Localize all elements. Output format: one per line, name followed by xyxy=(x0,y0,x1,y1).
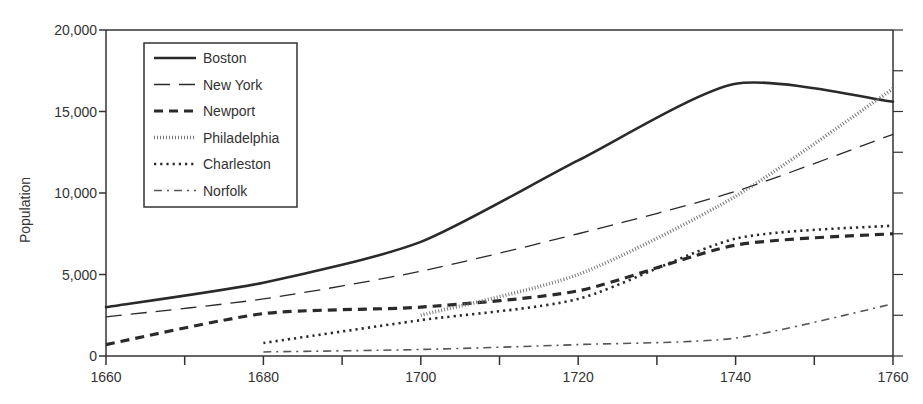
legend-label: Newport xyxy=(203,103,255,119)
legend-label: Norfolk xyxy=(203,183,248,199)
y-axis-label: Population xyxy=(17,177,33,243)
y-tick-label: 15,000 xyxy=(54,104,97,120)
legend-label: Boston xyxy=(203,50,247,66)
legend: BostonNew YorkNewportPhiladelphiaCharles… xyxy=(144,43,297,207)
x-tick-label: 1740 xyxy=(720,369,751,385)
y-tick-label: 10,000 xyxy=(54,185,97,201)
legend-label: Charleston xyxy=(203,156,271,172)
y-axis-ticks-right xyxy=(893,30,903,356)
x-tick-label: 1660 xyxy=(90,369,121,385)
x-tick-label: 1680 xyxy=(248,369,279,385)
x-tick-label: 1700 xyxy=(405,369,436,385)
legend-label: Philadelphia xyxy=(203,130,279,146)
y-tick-label: 0 xyxy=(89,348,97,364)
series-line-philadelphia xyxy=(421,89,893,316)
population-line-chart: 05,00010,00015,00020,000 166016801700172… xyxy=(0,0,923,404)
x-axis-ticks: 166016801700172017401760 xyxy=(90,356,908,385)
x-tick-label: 1720 xyxy=(563,369,594,385)
y-tick-label: 20,000 xyxy=(54,22,97,38)
series-line-charleston xyxy=(263,226,893,343)
series-line-norfolk xyxy=(263,304,893,352)
y-tick-label: 5,000 xyxy=(62,267,97,283)
x-tick-label: 1760 xyxy=(877,369,908,385)
legend-label: New York xyxy=(203,77,263,93)
y-axis-ticks: 05,00010,00015,00020,000 xyxy=(54,22,106,364)
